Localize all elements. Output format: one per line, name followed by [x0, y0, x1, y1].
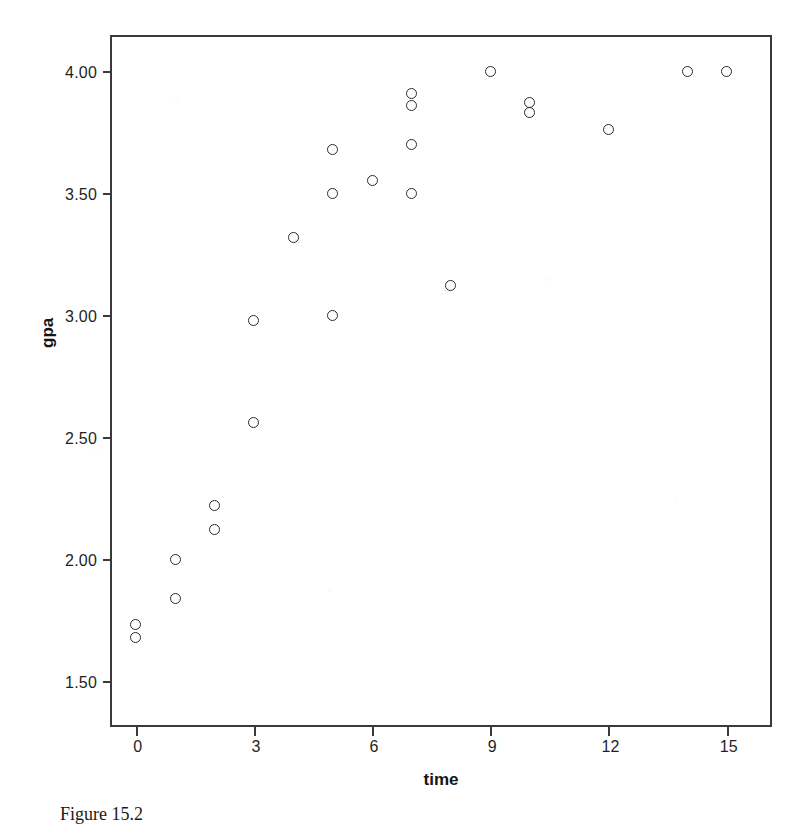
y-axis-tick-label: 2.50 — [65, 430, 97, 448]
data-point-marker — [170, 593, 181, 604]
data-point-marker — [209, 524, 220, 535]
data-point-marker — [682, 66, 693, 77]
data-point-marker — [130, 632, 141, 643]
data-point-marker — [327, 310, 338, 321]
y-axis-tick-label: 3.00 — [65, 308, 97, 326]
data-point-marker — [209, 500, 220, 511]
data-point-marker — [248, 417, 259, 428]
x-axis-tick-label: 12 — [602, 738, 620, 756]
x-axis-tick: 3 — [254, 725, 256, 736]
data-point-marker — [327, 144, 338, 155]
x-axis-tick: 6 — [372, 725, 374, 736]
data-point-marker — [485, 66, 496, 77]
data-point-marker — [130, 619, 141, 630]
data-point-marker — [367, 175, 378, 186]
x-axis-tick-label: 3 — [251, 738, 260, 756]
y-axis-tick: 3.50 — [103, 193, 112, 195]
x-axis-tick: 15 — [727, 725, 729, 736]
x-axis-tick: 0 — [136, 725, 138, 736]
data-point-marker — [406, 139, 417, 150]
x-axis-tick-label: 6 — [370, 738, 379, 756]
y-axis-tick-label: 1.50 — [65, 674, 97, 692]
x-axis-title: time — [110, 770, 772, 790]
x-axis-tick-label: 0 — [133, 738, 142, 756]
y-axis-tick: 4.00 — [103, 71, 112, 73]
x-axis-tick-label: 15 — [720, 738, 738, 756]
data-point-marker — [603, 124, 614, 135]
y-axis-tick-label: 4.00 — [65, 64, 97, 82]
x-axis-tick: 12 — [608, 725, 610, 736]
data-point-marker — [721, 66, 732, 77]
y-axis-tick: 1.50 — [103, 681, 112, 683]
x-axis-tick-label: 9 — [488, 738, 497, 756]
x-axis-tick: 9 — [490, 725, 492, 736]
data-point-marker — [327, 188, 338, 199]
data-point-marker — [406, 188, 417, 199]
data-point-marker — [288, 232, 299, 243]
y-axis-tick-label: 3.50 — [65, 186, 97, 204]
data-point-marker — [170, 554, 181, 565]
y-axis-tick: 2.00 — [103, 559, 112, 561]
y-axis-tick: 3.00 — [103, 315, 112, 317]
data-point-marker — [406, 100, 417, 111]
y-axis-title: gpa — [38, 318, 58, 348]
data-point-marker — [248, 315, 259, 326]
data-point-marker — [445, 280, 456, 291]
data-point-marker — [406, 88, 417, 99]
figure-caption: Figure 15.2 — [60, 804, 143, 825]
data-point-marker — [524, 107, 535, 118]
y-axis-tick-label: 2.00 — [65, 552, 97, 570]
plot-frame: 1.502.002.503.003.504.0003691215 — [110, 35, 772, 727]
y-axis-tick: 2.50 — [103, 437, 112, 439]
plot-area — [112, 37, 770, 725]
